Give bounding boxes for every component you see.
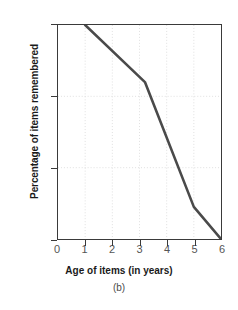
y-axis-title: Percentage of items remembered (29, 22, 40, 222)
plot-area (57, 24, 222, 240)
x-tick-mark (140, 240, 141, 246)
x-tick-mark (167, 240, 168, 246)
x-tick-label: 6 (207, 243, 237, 255)
figure-caption: (b) (0, 282, 238, 293)
x-axis-title: Age of items (in years) (0, 265, 238, 276)
x-tick-mark (112, 240, 113, 246)
x-tick-mark (85, 240, 86, 246)
data-line-series (58, 25, 221, 239)
chart-figure: Percentage of items remembered 708090100… (0, 0, 238, 310)
x-tick-label: 0 (42, 243, 72, 255)
x-tick-mark (195, 240, 196, 246)
y-tick-mark (51, 240, 57, 241)
